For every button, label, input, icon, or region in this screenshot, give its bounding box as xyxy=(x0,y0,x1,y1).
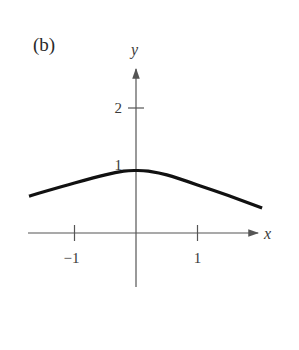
x-axis-label: x xyxy=(263,225,271,242)
y-axis-label: y xyxy=(129,41,139,59)
y-tick-label: 2 xyxy=(115,100,123,116)
graph-figure: (b) x y −11 12 xyxy=(0,0,299,350)
x-ticks: −11 xyxy=(64,225,202,266)
x-tick-label: −1 xyxy=(64,250,80,266)
axes xyxy=(28,69,258,287)
panel-label: (b) xyxy=(33,34,55,56)
x-tick-label: 1 xyxy=(194,250,202,266)
function-curve xyxy=(29,170,262,208)
y-ticks: 12 xyxy=(115,100,145,173)
